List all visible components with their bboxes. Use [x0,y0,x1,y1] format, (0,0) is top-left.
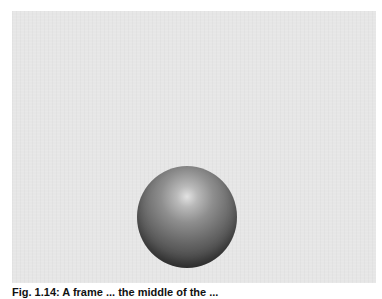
sphere-render [137,166,237,268]
figure-panel [12,11,376,283]
figure-caption: Fig. 1.14: A frame ... the middle of the… [12,285,382,299]
